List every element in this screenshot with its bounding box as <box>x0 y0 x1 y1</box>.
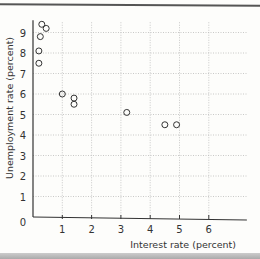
x-tick-label: 6 <box>206 224 212 235</box>
y-tick-label: 7 <box>20 69 26 80</box>
data-point <box>71 95 77 101</box>
x-tick-label: 2 <box>88 224 94 235</box>
data-point <box>124 109 130 115</box>
y-tick-label: 8 <box>20 48 26 59</box>
tick-labels: 1234560123456789 <box>20 28 212 236</box>
y-axis-title: Unemployment rate (percent) <box>4 37 15 179</box>
data-point <box>71 101 77 107</box>
y-tick-label: 3 <box>20 151 26 162</box>
y-tick-label: 4 <box>20 130 26 141</box>
x-tick-label: 3 <box>118 224 124 235</box>
x-axis-line <box>33 217 247 220</box>
grid <box>33 22 247 217</box>
data-point <box>36 60 42 66</box>
y-tick-label: 6 <box>20 89 26 100</box>
axes <box>33 20 247 220</box>
data-point <box>162 122 168 128</box>
x-tick-label: 5 <box>176 224 182 235</box>
data-point <box>174 122 180 128</box>
x-tick-label: 1 <box>59 224 65 235</box>
x-tick-label: 4 <box>147 224 153 235</box>
y-tick-label: 5 <box>20 110 26 121</box>
data-points <box>36 21 180 127</box>
data-point <box>37 34 43 40</box>
y-tick-label: 0 <box>20 217 26 228</box>
scatter-chart: 1234560123456789 Interest rate (percent)… <box>0 0 260 259</box>
y-tick-label: 9 <box>20 28 26 39</box>
y-tick-label: 2 <box>20 171 26 182</box>
x-axis-title: Interest rate (percent) <box>130 239 236 250</box>
y-tick-label: 1 <box>20 192 26 203</box>
data-point <box>59 91 65 97</box>
bottom-band <box>0 253 260 259</box>
data-point <box>43 25 49 31</box>
